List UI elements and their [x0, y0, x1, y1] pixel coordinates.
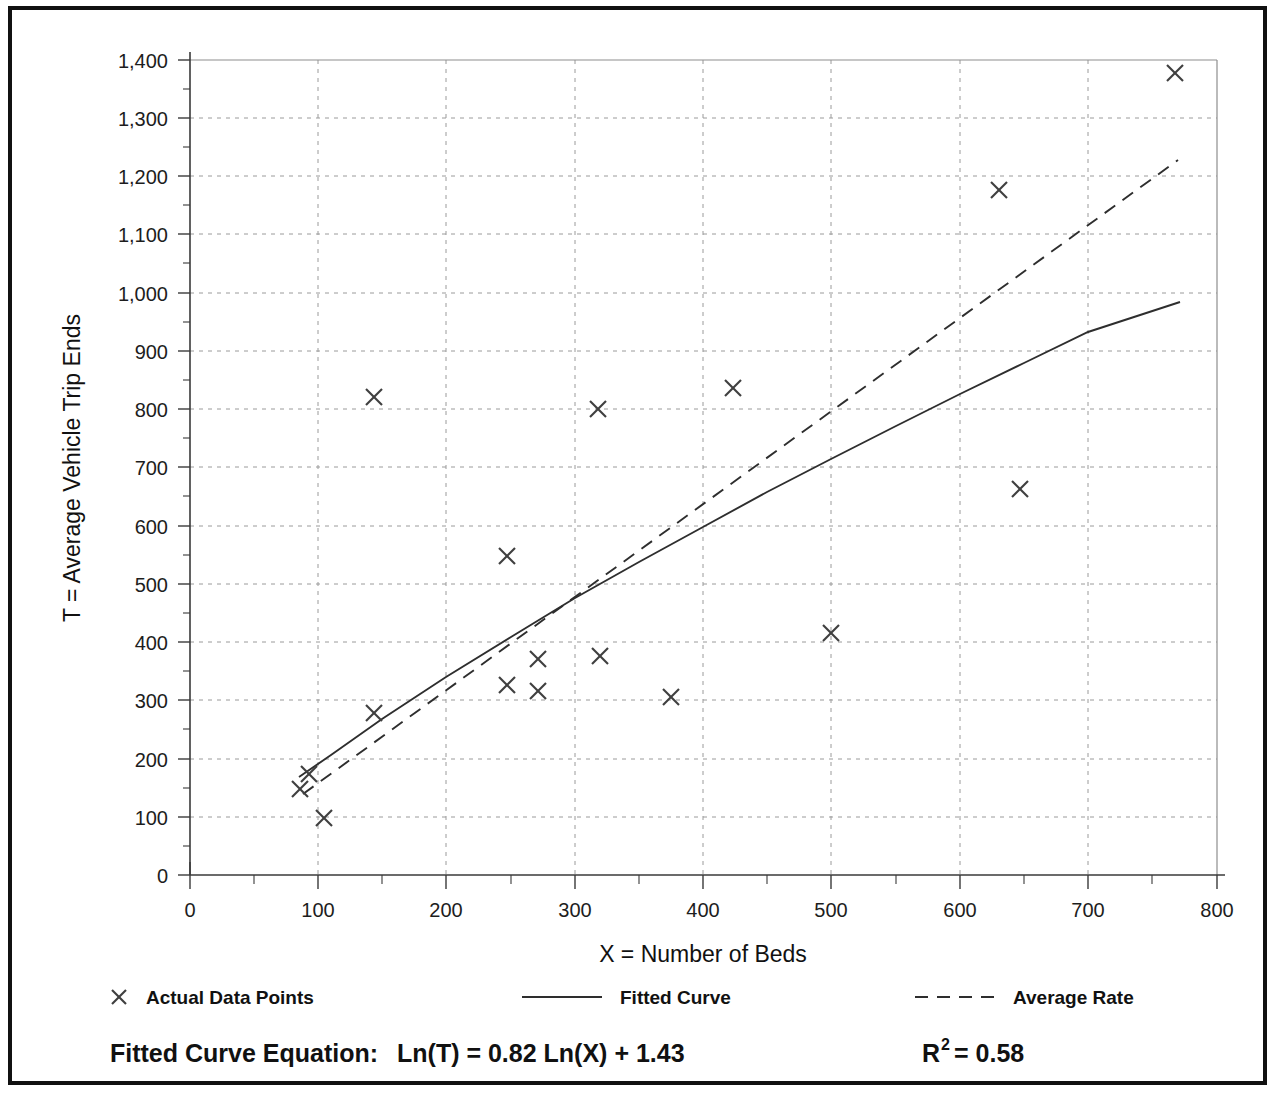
x-tick-label: 200: [429, 899, 462, 921]
fitted-curve-equation-label: Fitted Curve Equation: Ln(T) = 0.82 Ln(X…: [110, 1039, 685, 1067]
y-tick-labels: 0 100 200 300 400 500 600 700 800 900 1,…: [118, 50, 168, 887]
y-axis-title: T = Average Vehicle Trip Ends: [59, 314, 85, 622]
data-point-marker: [499, 548, 515, 564]
data-point-marker: [1012, 481, 1028, 497]
x-tick-label: 800: [1200, 899, 1233, 921]
y-tick-label: 300: [135, 690, 168, 712]
y-axis: [178, 52, 190, 875]
y-tick-label: 1,200: [118, 166, 168, 188]
legend-item-fitted-curve[interactable]: Fitted Curve: [522, 987, 731, 1008]
x-axis-title: X = Number of Beds: [599, 941, 807, 967]
x-tick-label: 0: [184, 899, 195, 921]
x-tick-label: 700: [1071, 899, 1104, 921]
data-point-marker: [499, 677, 515, 693]
fitted-equation: Ln(T) = 0.82 Ln(X) + 1.43: [397, 1039, 685, 1067]
data-point-marker: [530, 683, 546, 699]
data-point-marker: [292, 781, 308, 797]
y-tick-label: 200: [135, 749, 168, 771]
figure-container: 0 100 200 300 400 500 600 700 800 900 1,…: [0, 0, 1279, 1101]
r-squared-symbol: R: [922, 1039, 940, 1067]
y-tick-label: 1,400: [118, 50, 168, 72]
x-tick-label: 400: [686, 899, 719, 921]
legend-label: Average Rate: [1013, 987, 1134, 1008]
y-tick-label: 1,100: [118, 224, 168, 246]
data-point-marker: [590, 401, 606, 417]
average-rate-line: [303, 160, 1178, 794]
x-tick-label: 100: [301, 899, 334, 921]
y-tick-label: 800: [135, 399, 168, 421]
y-tick-label: 400: [135, 632, 168, 654]
fitted-curve-line: [299, 302, 1180, 777]
x-tick-label: 300: [558, 899, 591, 921]
y-tick-label: 900: [135, 341, 168, 363]
fitted-label: Fitted Curve Equation:: [110, 1039, 378, 1067]
r-squared-value: = 0.58: [954, 1039, 1024, 1067]
y-tick-label: 1,000: [118, 283, 168, 305]
data-points-group: [292, 65, 1183, 826]
x-tick-labels: 0 100 200 300 400 500 600 700 800: [184, 899, 1233, 921]
data-point-marker: [366, 705, 382, 721]
data-point-marker: [592, 648, 608, 664]
x-tick-label: 500: [814, 899, 847, 921]
y-tick-label: 1,300: [118, 108, 168, 130]
data-point-marker: [366, 389, 382, 405]
y-tick-label: 700: [135, 457, 168, 479]
legend-label: Fitted Curve: [620, 987, 731, 1008]
y-tick-label: 600: [135, 516, 168, 538]
data-point-marker: [530, 651, 546, 667]
data-point-marker: [663, 689, 679, 705]
data-point-marker: [1167, 65, 1183, 81]
data-point-marker: [725, 380, 741, 396]
legend: Actual Data Points Fitted Curve Average …: [112, 987, 1134, 1008]
equation-row: Fitted Curve Equation: Ln(T) = 0.82 Ln(X…: [110, 1036, 1024, 1067]
legend-item-actual-data-points[interactable]: Actual Data Points: [112, 987, 314, 1008]
y-tick-label: 500: [135, 574, 168, 596]
legend-item-average-rate[interactable]: Average Rate: [915, 987, 1134, 1008]
x-axis: [190, 862, 1225, 889]
data-point-marker: [991, 182, 1007, 198]
legend-label: Actual Data Points: [146, 987, 314, 1008]
x-marker-icon: [112, 990, 126, 1004]
r-squared-exponent: 2: [941, 1036, 950, 1053]
x-tick-label: 600: [943, 899, 976, 921]
y-tick-label: 100: [135, 807, 168, 829]
y-tick-label: 0: [157, 865, 168, 887]
scatter-chart: 0 100 200 300 400 500 600 700 800 900 1,…: [0, 0, 1279, 1101]
